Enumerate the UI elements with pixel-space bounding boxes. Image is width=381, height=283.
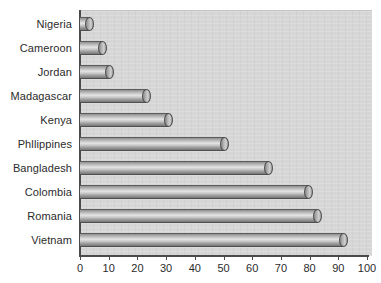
bar-romania — [80, 209, 321, 223]
tick-mark-80 — [310, 255, 311, 260]
bar-row: Vietnam — [0, 228, 374, 252]
tick-label-40: 40 — [180, 262, 210, 274]
tick-mark-30 — [166, 255, 167, 260]
bar-nigeria — [80, 17, 93, 31]
tick-label-30: 30 — [151, 262, 181, 274]
bar-cameroon — [80, 41, 106, 55]
bar-end-cap — [85, 17, 94, 31]
category-label-cameroon: Cameroon — [0, 36, 72, 60]
bar-end-cap — [164, 113, 173, 127]
tick-label-10: 10 — [94, 262, 124, 274]
bar-phllippines — [80, 137, 228, 151]
tick-label-80: 80 — [295, 262, 325, 274]
bar-row: Nigeria — [0, 12, 374, 36]
bar-row: Kenya — [0, 108, 374, 132]
bar-colombia — [80, 185, 312, 199]
tick-mark-50 — [224, 255, 225, 260]
bar-body — [80, 209, 317, 223]
category-label-romania: Romania — [0, 204, 72, 228]
bar-row: Colombia — [0, 180, 374, 204]
bar-body — [80, 137, 224, 151]
category-label-phllippines: Phllippines — [0, 132, 72, 156]
bar-end-cap — [105, 65, 114, 79]
category-label-colombia: Colombia — [0, 180, 72, 204]
bar-body — [80, 185, 308, 199]
tick-mark-90 — [338, 255, 339, 260]
bar-row: Jordan — [0, 60, 374, 84]
category-label-jordan: Jordan — [0, 60, 72, 84]
tick-label-50: 50 — [209, 262, 239, 274]
bar-jordan — [80, 65, 113, 79]
bar-end-cap — [98, 41, 107, 55]
tick-label-0: 0 — [65, 262, 95, 274]
bar-row: Romania — [0, 204, 374, 228]
bar-row: Bangladesh — [0, 156, 374, 180]
tick-label-70: 70 — [266, 262, 296, 274]
bar-end-cap — [313, 209, 322, 223]
category-label-madagascar: Madagascar — [0, 84, 72, 108]
tick-label-60: 60 — [237, 262, 267, 274]
bar-body — [80, 233, 343, 247]
bar-kenya — [80, 113, 172, 127]
bar-end-cap — [220, 137, 229, 151]
bar-end-cap — [142, 89, 151, 103]
bar-end-cap — [264, 161, 273, 175]
bar-end-cap — [339, 233, 348, 247]
bar-body — [80, 161, 268, 175]
bar-row: Cameroon — [0, 36, 374, 60]
tick-label-90: 90 — [323, 262, 353, 274]
tick-mark-10 — [109, 255, 110, 260]
bar-body — [80, 89, 146, 103]
tick-mark-60 — [252, 255, 253, 260]
category-label-kenya: Kenya — [0, 108, 72, 132]
tick-mark-0 — [80, 255, 81, 260]
bar-row: Madagascar — [0, 84, 374, 108]
category-label-nigeria: Nigeria — [0, 12, 72, 36]
tick-label-100: 100 — [352, 262, 381, 274]
bar-body — [80, 113, 168, 127]
bar-madagascar — [80, 89, 150, 103]
tick-mark-70 — [281, 255, 282, 260]
tick-mark-100 — [367, 255, 368, 260]
bar-vietnam — [80, 233, 347, 247]
bar-end-cap — [304, 185, 313, 199]
bar-bangladesh — [80, 161, 272, 175]
tick-label-20: 20 — [122, 262, 152, 274]
category-label-bangladesh: Bangladesh — [0, 156, 72, 180]
bar-row: Phllippines — [0, 132, 374, 156]
tick-mark-20 — [137, 255, 138, 260]
category-label-vietnam: Vietnam — [0, 228, 72, 252]
tick-mark-40 — [195, 255, 196, 260]
